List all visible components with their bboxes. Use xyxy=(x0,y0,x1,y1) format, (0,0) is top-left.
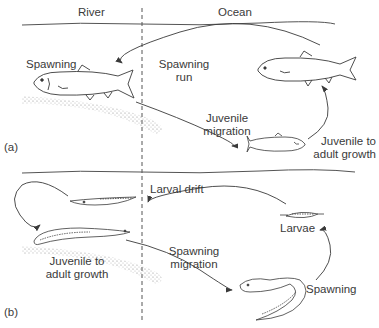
glass-eel-icon xyxy=(70,197,136,205)
label-spawning-run-line2: run xyxy=(156,71,212,84)
label-spawning-a: Spawning xyxy=(26,58,77,71)
label-spawning-migration-line1: Spawning xyxy=(162,245,226,258)
label-juvenile-growth-b-line2: adult growth xyxy=(42,268,112,281)
label-spawning-migration-line2: migration xyxy=(162,258,226,271)
label-juvenile-migration-line2: migration xyxy=(196,125,258,138)
eel-juvenile-icon xyxy=(34,228,130,245)
panel-label-b: (b) xyxy=(4,306,18,319)
label-larvae: Larvae xyxy=(280,222,315,235)
region-label-river: River xyxy=(78,6,105,19)
label-juvenile-growth-a: Juvenile to adult growth xyxy=(312,135,376,161)
panel-label-a: (a) xyxy=(4,141,18,154)
water-surface-a xyxy=(22,22,335,25)
juvenile-growth-arrow xyxy=(308,86,328,139)
label-juvenile-growth-a-line1: Juvenile to xyxy=(312,135,376,148)
label-juvenile-growth-b: Juvenile to adult growth xyxy=(42,255,112,281)
salmon-adult-icon xyxy=(258,51,356,86)
fish-life-cycle-diagram: River Ocean Spawning Spawning run Juveni… xyxy=(0,0,379,328)
label-juvenile-growth-a-line2: adult growth xyxy=(312,148,376,161)
label-juvenile-migration: Juvenile migration xyxy=(196,112,258,138)
water-surface-b xyxy=(22,170,355,173)
label-spawning-run: Spawning run xyxy=(156,58,212,84)
riverbed-a xyxy=(22,96,162,134)
label-juvenile-growth-b-line1: Juvenile to xyxy=(42,255,112,268)
spawning-run-arrow xyxy=(120,24,320,63)
label-spawning-b: Spawning xyxy=(306,283,357,296)
label-juvenile-migration-line1: Juvenile xyxy=(196,112,258,125)
spawning-to-larvae-arrow xyxy=(316,230,331,280)
eel-spawning-icon xyxy=(240,278,306,320)
label-larval-drift: Larval drift xyxy=(150,183,204,196)
river-return-arrow xyxy=(14,182,68,227)
eel-larvae-icon xyxy=(280,212,324,217)
label-spawning-run-line1: Spawning xyxy=(156,58,212,71)
region-label-ocean: Ocean xyxy=(218,6,252,19)
label-spawning-migration: Spawning migration xyxy=(162,245,226,271)
